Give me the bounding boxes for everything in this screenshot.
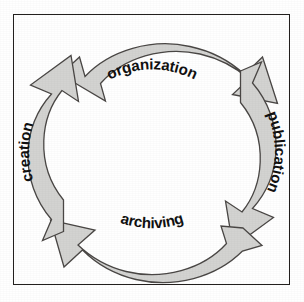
cycle-diagram-svg: organization archiving publication creat… — [0, 0, 304, 302]
cycle-diagram-figure: organization archiving publication creat… — [0, 0, 304, 302]
creation-arrow-body — [28, 56, 79, 241]
stage-label-archiving: archiving — [119, 209, 185, 231]
stage-arrow-creation — [28, 56, 79, 241]
